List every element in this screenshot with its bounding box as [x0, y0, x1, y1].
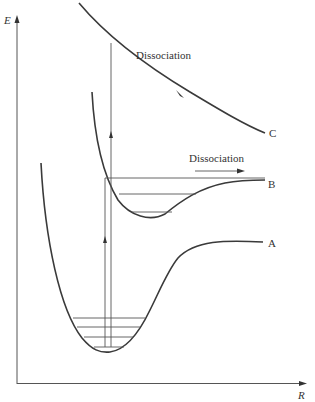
dissociation-arrow-c-icon [174, 90, 184, 98]
curve-b-label: B [268, 178, 275, 190]
curve-a-label: A [268, 237, 276, 249]
curve-c: Dissociation C [79, 3, 276, 139]
distance-axis-label: R [297, 389, 305, 401]
curve-a: A [41, 163, 276, 352]
axes: E R [3, 14, 307, 401]
distance-axis-arrow-icon [299, 381, 307, 386]
potential-energy-diagram: E R Dissociation C Dissociation B A [0, 0, 315, 402]
dissociation-arrow-b-icon [237, 169, 245, 174]
dissociation-label-middle: Dissociation [189, 152, 244, 164]
dissociation-label-upper: Dissociation [136, 49, 191, 61]
curve-c-label: C [269, 127, 276, 139]
transitions [103, 43, 113, 347]
energy-axis-arrow-icon [15, 15, 20, 23]
curve-a-path [41, 163, 263, 352]
transition-a-to-b-arrow-icon [103, 236, 107, 243]
transition-a-to-c-arrow-icon [109, 131, 113, 138]
curve-b: Dissociation B [92, 92, 275, 218]
energy-axis-label: E [3, 14, 11, 26]
curve-c-path [79, 3, 265, 133]
